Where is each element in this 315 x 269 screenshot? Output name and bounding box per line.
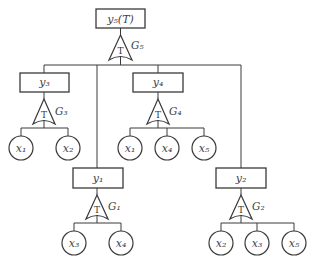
- svg-text:x₃: x₃: [69, 237, 80, 250]
- event-y4: y₄: [133, 73, 183, 92]
- basic-event-x3: x₃: [245, 231, 269, 255]
- gate-g2: T G₂: [230, 195, 265, 219]
- basic-event-x1: x₁: [118, 136, 142, 160]
- svg-text:x₄: x₄: [162, 142, 173, 155]
- svg-text:T: T: [155, 110, 161, 120]
- basic-event-x4: x₄: [109, 231, 133, 255]
- event-y2: y₂: [216, 168, 266, 188]
- basic-event-x2: x₂: [56, 136, 80, 160]
- gate-label: G₃: [55, 105, 68, 117]
- basic-event-x5: x₅: [192, 136, 216, 160]
- svg-text:x₂: x₂: [216, 237, 227, 250]
- svg-text:x₁: x₁: [16, 142, 27, 155]
- basic-event-x4: x₄: [155, 136, 179, 160]
- basic-event-x1: x₁: [9, 136, 33, 160]
- event-label: y₂: [235, 172, 247, 185]
- svg-text:T: T: [41, 110, 47, 120]
- gate-g3: T G₃: [33, 99, 68, 124]
- basic-event-x2: x₂: [209, 231, 233, 255]
- gate-label: G₅: [131, 39, 144, 51]
- svg-text:T: T: [117, 46, 123, 56]
- basic-event-x3: x₃: [62, 231, 86, 255]
- basic-event-x5: x₅: [282, 231, 306, 255]
- svg-text:x₄: x₄: [116, 237, 127, 250]
- gate-label: G₂: [252, 200, 265, 212]
- svg-text:x₅: x₅: [289, 237, 300, 250]
- svg-text:x₅: x₅: [199, 142, 210, 155]
- gate-g4: T G₄: [147, 99, 182, 124]
- gate-g5: T G₅: [109, 35, 144, 60]
- event-y5: y₅(T): [96, 9, 145, 28]
- event-label: y₃: [38, 76, 50, 89]
- svg-text:x₁: x₁: [125, 142, 136, 155]
- svg-text:x₂: x₂: [63, 142, 74, 155]
- svg-text:x₃: x₃: [252, 237, 263, 250]
- svg-text:T: T: [238, 205, 244, 215]
- event-label: y₁: [92, 172, 104, 185]
- gate-label: G₄: [169, 105, 182, 117]
- event-y3: y₃: [20, 73, 69, 92]
- svg-text:T: T: [94, 205, 100, 215]
- gate-label: G₁: [108, 200, 121, 212]
- fault-tree-diagram: y₅(T) T G₅ y₃ T G₃ x₁ x₂ y₄ T: [0, 0, 315, 269]
- gate-g1: T G₁: [86, 195, 121, 219]
- event-y1: y₁: [73, 168, 123, 188]
- event-label: y₄: [152, 76, 164, 89]
- event-label: y₅(T): [106, 13, 134, 26]
